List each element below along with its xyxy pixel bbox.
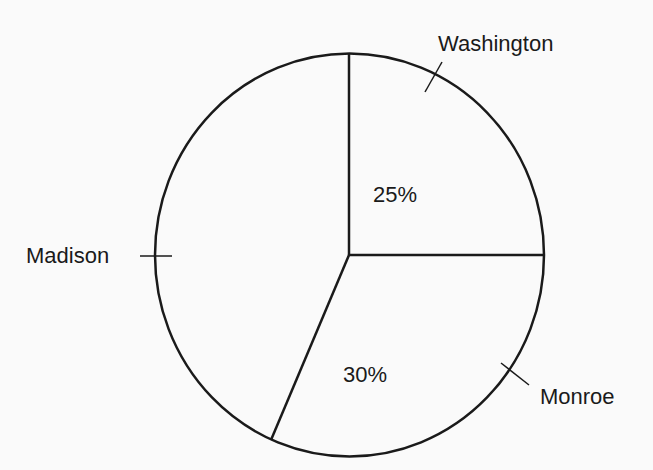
label-washington: Washington <box>438 33 553 55</box>
percent-washington: 25% <box>373 184 417 206</box>
label-madison: Madison <box>26 245 109 267</box>
percent-monroe: 30% <box>343 364 387 386</box>
label-monroe: Monroe <box>540 386 615 408</box>
